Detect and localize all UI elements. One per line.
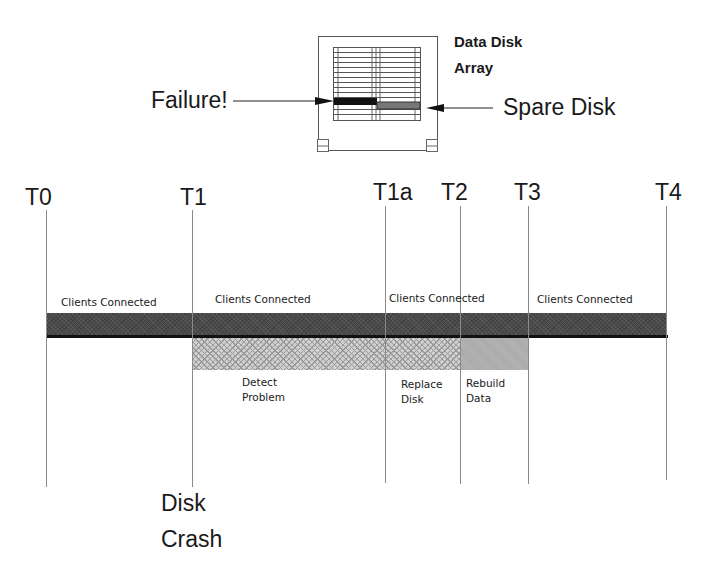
clients-connected-bar [46,313,666,335]
phase-replace-line1: Replace [401,377,443,392]
segment-label-3: Clients Connected [389,291,485,306]
segment-label-2: Clients Connected [215,292,311,307]
time-label-t1a: T1a [373,181,413,204]
time-label-t4: T4 [655,181,682,204]
phase-detect-line1: Detect [242,375,285,390]
event-label-line2: Crash [161,528,222,551]
failure-label: Failure! [151,89,228,112]
time-line-t2 [460,206,461,484]
phase-replace-line2: Disk [401,392,443,407]
rebuild-bar [460,338,528,370]
spare-disk-label: Spare Disk [503,96,615,119]
time-label-t3: T3 [514,181,541,204]
time-label-t2: T2 [441,181,468,204]
time-label-t0: T0 [25,186,52,209]
array-label-line2: Array [454,55,493,81]
array-label-line1: Data Disk [454,29,522,55]
phase-rebuild-line1: Rebuild [466,376,505,391]
time-label-t1: T1 [180,186,207,209]
segment-label-1: Clients Connected [61,295,157,310]
disk-array-icon [0,0,719,180]
segment-label-4: Clients Connected [537,292,633,307]
event-label-line1: Disk [161,492,206,515]
time-line-t1a [385,206,386,483]
phase-detect-line2: Problem [242,390,285,405]
phase-rebuild-line2: Data [466,391,505,406]
time-line-t3 [528,206,529,484]
phase-label-replace: Replace Disk [401,377,443,407]
time-line-t1 [192,210,193,487]
phase-label-rebuild: Rebuild Data [466,376,505,406]
phase-label-detect: Detect Problem [242,375,285,405]
time-line-t4 [666,206,667,480]
time-line-t0 [46,210,47,487]
detect-replace-bar [192,338,460,370]
